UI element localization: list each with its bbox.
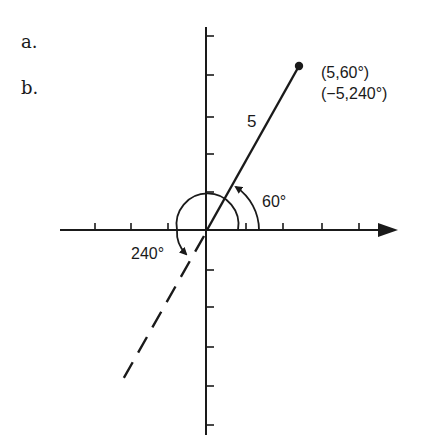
x-axis xyxy=(60,223,398,237)
point-marker xyxy=(295,62,303,70)
x-axis-arrow-icon xyxy=(378,223,398,237)
angle-label-60: 60° xyxy=(262,193,286,210)
point-label-alternate: (−5,240°) xyxy=(321,85,387,102)
polar-diagram: (5,60°) (−5,240°) 5 60° 240° xyxy=(0,0,422,437)
x-axis-ticks xyxy=(95,223,359,230)
angle-label-240: 240° xyxy=(131,245,164,262)
segment-length-label: 5 xyxy=(247,112,256,131)
point-label-primary: (5,60°) xyxy=(321,64,369,81)
arc-240-degrees xyxy=(177,193,239,254)
